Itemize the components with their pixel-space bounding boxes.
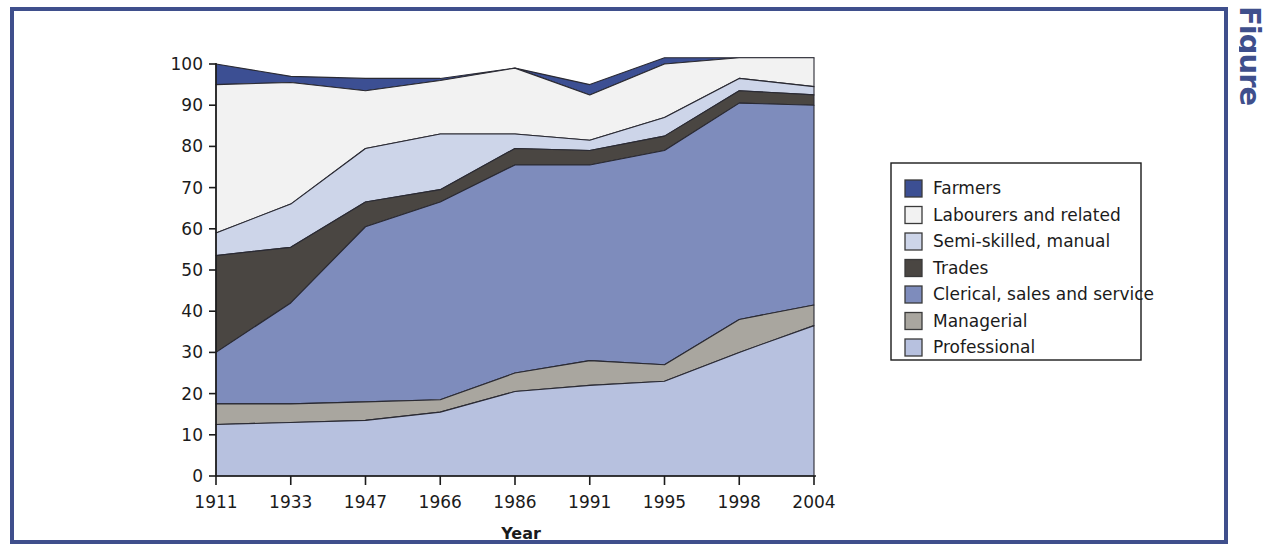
legend-item-label: Trades bbox=[932, 258, 989, 278]
chart-area: 0102030405060708090100 19111933194719661… bbox=[14, 11, 1232, 548]
legend-swatch bbox=[905, 286, 922, 303]
y-tick-label: 70 bbox=[181, 178, 203, 198]
y-tick-label: 100 bbox=[171, 54, 203, 74]
x-tick-label: 1966 bbox=[419, 492, 462, 512]
legend-item-label: Labourers and related bbox=[933, 205, 1121, 225]
legend-swatch bbox=[905, 207, 922, 224]
page-edge-text: Figure bbox=[1239, 6, 1265, 246]
legend-swatch bbox=[905, 180, 922, 197]
x-tick-label: 1991 bbox=[568, 492, 611, 512]
x-tick-label: 1998 bbox=[718, 492, 761, 512]
stacked-area-chart: 0102030405060708090100 19111933194719661… bbox=[14, 11, 1232, 548]
x-axis-title: Year bbox=[500, 524, 541, 543]
y-tick-label: 40 bbox=[181, 301, 203, 321]
legend: FarmersLabourers and relatedSemi-skilled… bbox=[891, 163, 1154, 360]
y-tick-label: 60 bbox=[181, 219, 203, 239]
x-tick-label: 1995 bbox=[643, 492, 686, 512]
area-series-group bbox=[216, 58, 814, 476]
x-tick-label: 2004 bbox=[792, 492, 835, 512]
y-tick-label: 90 bbox=[181, 95, 203, 115]
legend-item-label: Semi-skilled, manual bbox=[933, 231, 1110, 251]
x-tick-label: 1947 bbox=[344, 492, 387, 512]
x-tick-label: 1911 bbox=[194, 492, 237, 512]
x-tick-label: 1986 bbox=[493, 492, 536, 512]
legend-item-label: Professional bbox=[933, 337, 1035, 357]
legend-item-label: Farmers bbox=[933, 178, 1001, 198]
y-tick-label: 50 bbox=[181, 260, 203, 280]
legend-swatch bbox=[905, 313, 922, 330]
legend-item-label: Managerial bbox=[933, 311, 1027, 331]
y-tick-label: 30 bbox=[181, 342, 203, 362]
x-axis-ticks: 191119331947196619861991199519982004 bbox=[194, 476, 835, 512]
y-tick-label: 0 bbox=[192, 466, 203, 486]
y-axis-ticks: 0102030405060708090100 bbox=[171, 54, 216, 486]
legend-swatch bbox=[905, 260, 922, 277]
y-tick-label: 20 bbox=[181, 384, 203, 404]
y-tick-label: 80 bbox=[181, 136, 203, 156]
figure-frame: 0102030405060708090100 19111933194719661… bbox=[10, 7, 1228, 544]
legend-swatch bbox=[905, 233, 922, 250]
x-tick-label: 1933 bbox=[269, 492, 312, 512]
legend-swatch bbox=[905, 339, 922, 356]
legend-item-label: Clerical, sales and service bbox=[933, 284, 1154, 304]
y-tick-label: 10 bbox=[181, 425, 203, 445]
